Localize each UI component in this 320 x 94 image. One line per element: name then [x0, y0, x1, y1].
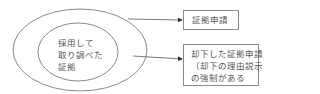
box2-label-line-2: （却下の理由説示: [191, 60, 258, 72]
arrow-to-box2: [133, 56, 182, 59]
inner-label-line-2: 取り調べた: [58, 49, 118, 61]
inner-label-line-3: 証拠: [58, 61, 118, 73]
box2-label-line-1: 却下した証拠申請: [191, 48, 258, 60]
evidence-request-box: 証拠申請: [183, 10, 239, 30]
inner-label-line-1: 採用して: [58, 37, 118, 49]
box2-label-line-3: の強制がある: [191, 72, 258, 84]
inner-ellipse-label: 採用して 取り調べた 証拠: [58, 37, 118, 73]
arrow-to-box1: [128, 19, 182, 20]
box1-label: 証拠申請: [192, 14, 238, 26]
rejected-evidence-request-box: 却下した証拠申請 （却下の理由説示 の強制がある: [183, 44, 259, 86]
